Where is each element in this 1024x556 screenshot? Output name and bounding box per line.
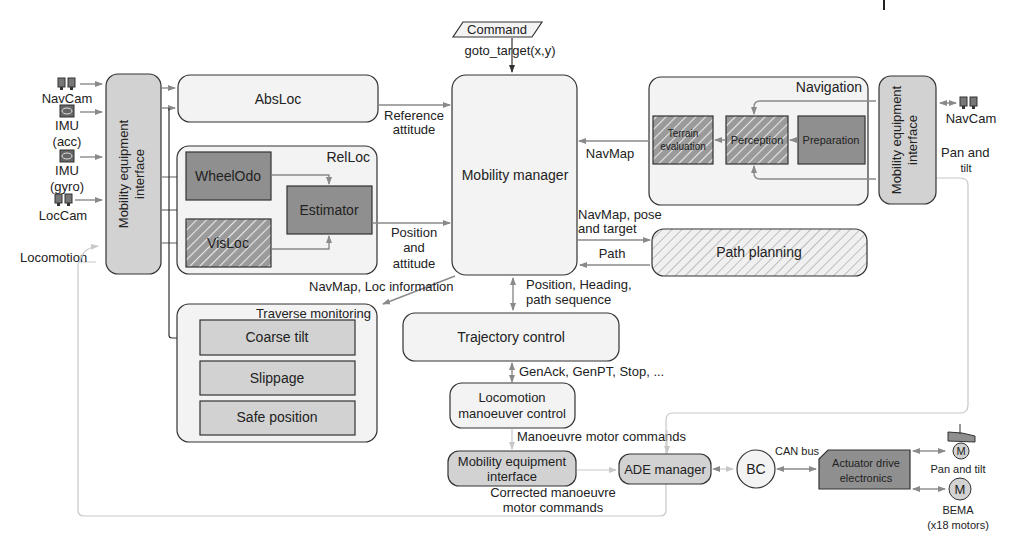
svg-text:Slippage: Slippage	[250, 370, 305, 386]
svg-text:manoeuver control: manoeuver control	[458, 406, 566, 421]
svg-text:interface: interface	[487, 469, 537, 484]
svg-text:Mobility manager: Mobility manager	[462, 167, 569, 183]
mobility-manager-block[interactable]: Mobility manager	[452, 75, 577, 275]
navcam-right-label: NavCam	[946, 111, 997, 126]
navmap-loc-label: NavMap, Loc information	[309, 279, 454, 294]
pan-tilt-head-icon	[948, 432, 975, 442]
sensor-loccam: LocCam	[39, 194, 87, 223]
svg-text:AbsLoc: AbsLoc	[255, 91, 302, 107]
svg-text:Coarse tilt: Coarse tilt	[245, 329, 308, 345]
svg-text:motor commands: motor commands	[503, 500, 604, 515]
sensor-imu-acc: IMU (acc)	[53, 105, 82, 149]
svg-text:NavMap, pose: NavMap, pose	[578, 207, 662, 222]
svg-text:NavCam: NavCam	[42, 91, 93, 106]
sensor-imu-gyro: IMU (gyro)	[50, 150, 84, 194]
svg-text:interface: interface	[905, 115, 920, 165]
mobility-equipment-interface-bottom[interactable]: Mobility equipment interface	[448, 451, 576, 486]
svg-text:Path planning: Path planning	[716, 244, 802, 260]
svg-text:Command: Command	[467, 22, 527, 37]
ade-manager-block[interactable]: ADE manager	[619, 454, 711, 484]
svg-text:M: M	[955, 482, 966, 497]
svg-text:BEMA: BEMA	[942, 504, 974, 516]
bus-controller-node[interactable]: BC	[737, 450, 775, 488]
svg-text:(gyro): (gyro)	[50, 179, 84, 194]
absloc-block[interactable]: AbsLoc	[178, 75, 378, 122]
svg-text:Preparation: Preparation	[803, 134, 860, 146]
svg-text:VisLoc: VisLoc	[207, 235, 249, 251]
svg-text:Estimator: Estimator	[299, 202, 358, 218]
svg-text:Reference: Reference	[384, 108, 444, 123]
svg-text:Position, Heading,: Position, Heading,	[526, 277, 632, 292]
svg-text:Mobility equipment: Mobility equipment	[116, 119, 131, 228]
visloc-block[interactable]: VisLoc	[186, 219, 271, 267]
svg-text:BC: BC	[746, 461, 765, 477]
svg-text:Pan and tilt: Pan and tilt	[930, 463, 985, 475]
svg-text:Trajectory control: Trajectory control	[457, 329, 565, 345]
svg-text:and: and	[403, 240, 425, 255]
svg-text:LocCam: LocCam	[39, 208, 87, 223]
pan-tilt-right-label: Pan and	[941, 145, 989, 160]
svg-text:GenAck, GenPT, Stop, ...: GenAck, GenPT, Stop, ...	[519, 364, 664, 379]
svg-text:NavMap: NavMap	[586, 146, 634, 161]
svg-text:M: M	[956, 445, 965, 457]
perception-block[interactable]: Perception	[726, 116, 788, 164]
mobility-architecture-diagram: NavCam IMU (acc) IMU (gyro) LocCam Locom…	[0, 0, 1024, 556]
svg-text:IMU: IMU	[55, 118, 79, 133]
camera-pair-icon	[960, 97, 977, 109]
svg-text:Locomotion: Locomotion	[478, 390, 545, 405]
estimator-block[interactable]: Estimator	[287, 186, 372, 234]
preparation-block[interactable]: Preparation	[798, 116, 865, 164]
manoeuvre-commands-label: Manoeuvre motor commands	[517, 429, 687, 444]
svg-text:Perception: Perception	[731, 134, 784, 146]
camera-pair-icon	[58, 78, 75, 90]
locomotion-manoeuver-control-block[interactable]: Locomotion manoeuver control	[450, 383, 575, 428]
svg-text:IMU: IMU	[55, 163, 79, 178]
goto-target-label: goto_target(x,y)	[464, 43, 555, 58]
svg-text:WheelOdo: WheelOdo	[195, 168, 261, 184]
command-input[interactable]: Command	[453, 22, 542, 37]
svg-text:Path: Path	[599, 246, 626, 261]
svg-text:Safe position: Safe position	[237, 409, 318, 425]
coarse-tilt-block[interactable]: Coarse tilt	[200, 320, 355, 355]
svg-text:Mobility equipment: Mobility equipment	[458, 454, 567, 469]
svg-text:interface: interface	[132, 149, 147, 199]
svg-text:tilt: tilt	[961, 162, 972, 174]
safe-position-block[interactable]: Safe position	[200, 401, 355, 435]
slippage-block[interactable]: Slippage	[200, 361, 355, 395]
actuator-drive-electronics-block[interactable]: Actuator drive electronics	[819, 450, 910, 489]
imu-icon	[60, 105, 74, 117]
camera-pair-icon	[55, 194, 72, 206]
svg-text:(x18 motors): (x18 motors)	[927, 519, 989, 531]
svg-text:evaluation: evaluation	[660, 141, 706, 152]
svg-text:attitude: attitude	[393, 122, 436, 137]
mobility-equipment-interface-right[interactable]: Mobility equipment interface	[879, 76, 936, 204]
locomotion-label: Locomotion	[20, 250, 87, 265]
can-bus-label: CAN bus	[775, 445, 820, 457]
svg-text:Position: Position	[391, 225, 437, 240]
svg-text:(acc): (acc)	[53, 134, 82, 149]
svg-text:Actuator drive: Actuator drive	[832, 457, 900, 469]
bema-motors: M BEMA (x18 motors)	[927, 478, 989, 531]
svg-text:Mobility equipment: Mobility equipment	[889, 85, 904, 194]
wheelodo-block[interactable]: WheelOdo	[186, 152, 271, 200]
svg-text:Navigation: Navigation	[796, 79, 862, 95]
svg-text:Corrected manoeuvre: Corrected manoeuvre	[490, 485, 616, 500]
path-planning-block[interactable]: Path planning	[652, 229, 867, 276]
terrain-evaluation-block[interactable]: Terrain evaluation	[653, 116, 713, 164]
svg-text:electronics: electronics	[840, 472, 893, 484]
svg-text:and target: and target	[578, 221, 637, 236]
svg-text:Terrain: Terrain	[668, 128, 699, 139]
sensor-navcam-left: NavCam	[42, 78, 93, 106]
trajectory-control-block[interactable]: Trajectory control	[403, 313, 619, 361]
svg-text:RelLoc: RelLoc	[326, 149, 370, 165]
svg-text:attitude: attitude	[393, 256, 436, 271]
imu-icon	[60, 150, 74, 162]
svg-text:Traverse monitoring: Traverse monitoring	[256, 306, 371, 321]
pan-tilt-motor: M Pan and tilt	[930, 424, 985, 475]
svg-text:ADE manager: ADE manager	[624, 462, 706, 477]
svg-text:path sequence: path sequence	[526, 292, 611, 307]
mobility-equipment-interface-left[interactable]: Mobility equipment interface	[106, 74, 161, 274]
